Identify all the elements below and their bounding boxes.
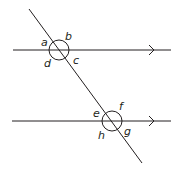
- angle-label-c: c: [73, 54, 79, 67]
- angle-label-f: f: [119, 100, 125, 113]
- parallel-lines-transversal-diagram: a b c d e f g h: [0, 0, 181, 169]
- angle-label-d: d: [44, 57, 52, 70]
- angle-label-e: e: [93, 107, 100, 120]
- angle-label-a: a: [41, 36, 48, 49]
- diagram-svg: a b c d e f g h: [0, 0, 181, 169]
- angle-label-h: h: [98, 129, 105, 142]
- angle-label-b: b: [65, 30, 72, 43]
- transversal-line: [29, 9, 142, 163]
- angle-label-g: g: [124, 125, 131, 138]
